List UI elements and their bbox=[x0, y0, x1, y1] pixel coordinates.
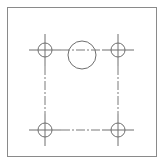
bolt-hole-bottom-right bbox=[102, 114, 134, 146]
bolt-hole-bottom-left bbox=[29, 114, 61, 146]
technical-drawing bbox=[0, 0, 163, 164]
bolt-hole-top-left bbox=[29, 34, 61, 66]
center-hole bbox=[68, 41, 96, 69]
bolt-hole-top-right bbox=[102, 34, 134, 66]
bolt-pattern-centerlines bbox=[45, 50, 118, 130]
plate-border bbox=[8, 8, 157, 157]
